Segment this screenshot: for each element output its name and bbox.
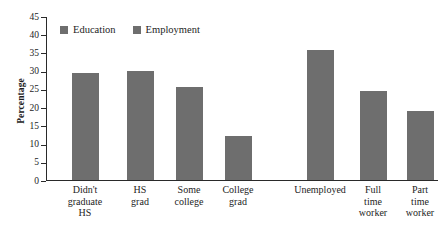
- x-axis-line: [46, 180, 438, 181]
- x-axis-label: College grad: [207, 184, 269, 207]
- y-tick-label: 5: [34, 156, 39, 168]
- y-tick-mark: [41, 108, 46, 109]
- y-axis-line: [46, 17, 47, 181]
- y-tick-mark: [41, 126, 46, 127]
- bar: [307, 50, 334, 180]
- legend-item: Employment: [133, 24, 200, 35]
- legend-swatch-icon: [60, 26, 68, 34]
- x-axis-label: Part time worker: [389, 184, 446, 219]
- y-tick-mark: [41, 53, 46, 54]
- y-tick-label: 35: [30, 47, 40, 59]
- bar: [72, 73, 99, 180]
- y-tick-label: 30: [30, 65, 40, 77]
- y-tick-mark: [41, 35, 46, 36]
- y-tick-label: 20: [30, 102, 40, 114]
- bar: [407, 111, 434, 180]
- y-tick-label: 45: [30, 11, 40, 23]
- plot-area: 051015202530354045: [46, 17, 438, 181]
- legend-item: Education: [60, 24, 116, 35]
- bar: [360, 91, 387, 180]
- y-tick-label: 0: [34, 175, 39, 187]
- legend-label: Education: [73, 24, 116, 35]
- y-tick-label: 15: [30, 120, 40, 132]
- y-tick-mark: [41, 90, 46, 91]
- y-tick-mark: [41, 17, 46, 18]
- y-tick-mark: [41, 145, 46, 146]
- y-tick-mark: [41, 181, 46, 182]
- chart-legend: EducationEmployment: [60, 24, 200, 35]
- y-axis-title: Percentage: [16, 56, 26, 146]
- bar: [176, 87, 203, 180]
- y-tick-label: 10: [30, 138, 40, 150]
- legend-swatch-icon: [133, 26, 141, 34]
- bar-chart: Percentage 051015202530354045 Didn't gra…: [0, 0, 446, 236]
- y-tick-label: 40: [30, 29, 40, 41]
- bar: [127, 71, 154, 180]
- y-tick-mark: [41, 72, 46, 73]
- y-tick-label: 25: [30, 83, 40, 95]
- bar: [225, 136, 252, 180]
- legend-label: Employment: [146, 24, 200, 35]
- y-tick-mark: [41, 163, 46, 164]
